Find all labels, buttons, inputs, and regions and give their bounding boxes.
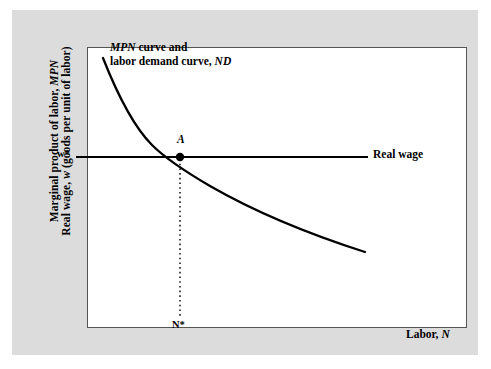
curve-annotation-line-2-text: labor demand curve,: [110, 55, 215, 67]
figure-root: Marginal product of labor, MPN Real wage…: [0, 0, 491, 369]
y-axis-label-line-2-italic: w: [60, 171, 72, 179]
x-axis-label: Labor, N: [406, 328, 450, 342]
y-axis-label-line-1-italic: MPN: [48, 60, 60, 86]
figure-panel: Marginal product of labor, MPN Real wage…: [12, 10, 478, 355]
y-axis-label-line-2-text-a: Real wage,: [60, 179, 72, 236]
y-axis-label: Marginal product of labor, MPN Real wage…: [48, 16, 72, 266]
y-axis-label-line-2: Real wage, w (goods per unit of labor): [60, 16, 72, 266]
curve-annotation-label: MPN curve and labor demand curve, ND: [110, 41, 231, 68]
curve-annotation-line-2-italic: ND: [215, 55, 232, 67]
curve-annotation-line-1: MPN curve and: [110, 41, 231, 55]
x-axis-tick-n-star: N*: [172, 319, 185, 331]
x-axis-label-text: Labor,: [406, 328, 441, 340]
x-axis-label-italic: N: [441, 328, 449, 340]
equilibrium-point-label: A: [177, 133, 185, 147]
curve-annotation-line-2: labor demand curve, ND: [110, 55, 231, 69]
real-wage-label: Real wage: [373, 148, 423, 162]
curve-annotation-line-1-text: curve and: [136, 41, 188, 53]
plot-area: [87, 47, 467, 328]
y-axis-label-line-1: Marginal product of labor, MPN: [48, 16, 60, 266]
curve-annotation-line-1-italic: MPN: [110, 41, 136, 53]
y-axis-tick-w-star: w*: [57, 148, 70, 160]
